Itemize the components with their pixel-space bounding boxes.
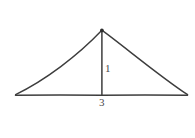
- triangle-diagram: [0, 0, 195, 138]
- base-label: 3: [99, 97, 105, 108]
- height-label: 1: [105, 63, 111, 74]
- triangle-right-side: [102, 30, 187, 94]
- apex-vertex-point: [100, 29, 104, 33]
- triangle-left-side: [16, 31, 102, 95]
- figure-canvas: 1 3: [0, 0, 195, 138]
